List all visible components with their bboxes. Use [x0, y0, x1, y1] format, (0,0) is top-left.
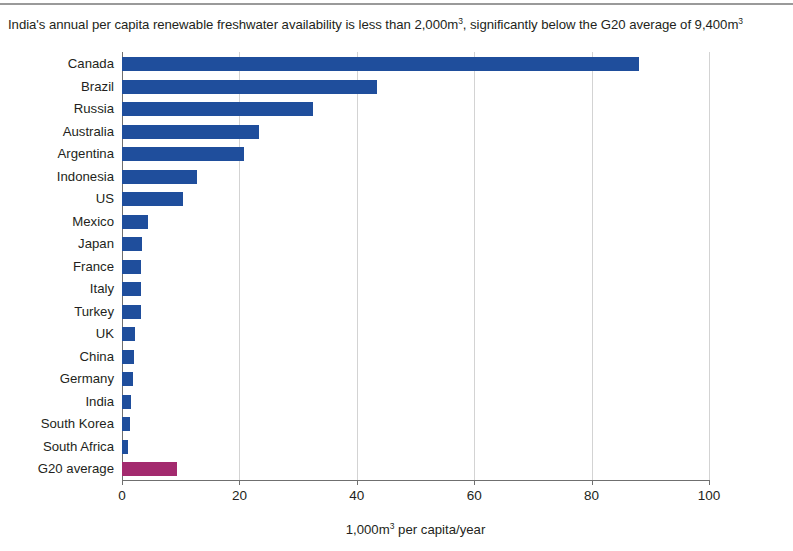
chart-row: South Africa: [122, 435, 709, 459]
x-tick-mark-40: [357, 480, 358, 485]
category-label-canada: Canada: [2, 52, 114, 76]
bar-brazil: [122, 80, 377, 94]
bar-south-africa: [122, 440, 128, 454]
x-axis-title-prefix: 1,000m: [346, 522, 390, 537]
chart-title: India's annual per capita renewable fres…: [8, 17, 788, 33]
x-tick-label-0: 0: [92, 487, 152, 505]
chart-title-superscript-2: 3: [738, 16, 743, 26]
chart-row: South Korea: [122, 412, 709, 436]
bar-china: [122, 350, 134, 364]
x-tick-label-60: 60: [444, 487, 504, 505]
bar-russia: [122, 102, 313, 116]
category-label-indonesia: Indonesia: [2, 165, 114, 189]
category-label-australia: Australia: [2, 120, 114, 144]
bar-india: [122, 395, 131, 409]
x-tick-label-100: 100: [679, 487, 739, 505]
bar-us: [122, 192, 183, 206]
chart-row: UK: [122, 322, 709, 346]
category-label-turkey: Turkey: [2, 300, 114, 324]
x-axis-title: 1,000m3 per capita/year: [122, 522, 709, 537]
chart-row: Mexico: [122, 210, 709, 234]
category-label-south-korea: South Korea: [2, 412, 114, 436]
category-label-japan: Japan: [2, 232, 114, 256]
chart-row: France: [122, 255, 709, 279]
chart-row: Russia: [122, 97, 709, 121]
category-label-mexico: Mexico: [2, 210, 114, 234]
x-tick-label-20: 20: [209, 487, 269, 505]
chart-title-part2: , significantly below the G20 average of…: [463, 17, 738, 32]
category-label-g20-average: G20 average: [2, 457, 114, 481]
x-tick-mark-60: [474, 480, 475, 485]
chart-row: US: [122, 187, 709, 211]
chart-row: Indonesia: [122, 165, 709, 189]
x-tick-mark-20: [239, 480, 240, 485]
bar-mexico: [122, 215, 148, 229]
chart-row: India: [122, 390, 709, 414]
category-label-uk: UK: [2, 322, 114, 346]
category-label-south-africa: South Africa: [2, 435, 114, 459]
category-label-russia: Russia: [2, 97, 114, 121]
bar-g20-average: [122, 462, 177, 476]
category-label-france: France: [2, 255, 114, 279]
chart-row: China: [122, 345, 709, 369]
bar-germany: [122, 372, 133, 386]
bar-italy: [122, 282, 141, 296]
chart-row: Japan: [122, 232, 709, 256]
x-tick-label-80: 80: [562, 487, 622, 505]
x-axis-title-suffix: per capita/year: [394, 522, 485, 537]
chart-row: Brazil: [122, 75, 709, 99]
chart-row: Italy: [122, 277, 709, 301]
bar-argentina: [122, 147, 244, 161]
chart-row: G20 average: [122, 457, 709, 481]
category-label-china: China: [2, 345, 114, 369]
bar-australia: [122, 125, 259, 139]
category-label-brazil: Brazil: [2, 75, 114, 99]
header-divider: [0, 3, 793, 5]
chart-row: Turkey: [122, 300, 709, 324]
category-label-germany: Germany: [2, 367, 114, 391]
chart-row: Australia: [122, 120, 709, 144]
bar-south-korea: [122, 417, 130, 431]
category-label-argentina: Argentina: [2, 142, 114, 166]
x-tick-mark-0: [122, 480, 123, 485]
chart-row: Canada: [122, 52, 709, 76]
x-tick-mark-100: [709, 480, 710, 485]
chart-plot-area: CanadaBrazilRussiaAustraliaArgentinaIndo…: [122, 52, 709, 480]
gridline-100: [709, 52, 710, 480]
x-tick-mark-80: [592, 480, 593, 485]
bar-indonesia: [122, 170, 197, 184]
category-label-italy: Italy: [2, 277, 114, 301]
chart-title-part1: India's annual per capita renewable fres…: [8, 17, 458, 32]
x-tick-label-40: 40: [327, 487, 387, 505]
x-axis-line: [122, 480, 709, 481]
bar-canada: [122, 57, 639, 71]
category-label-us: US: [2, 187, 114, 211]
bar-france: [122, 260, 141, 274]
bar-turkey: [122, 305, 141, 319]
bar-japan: [122, 237, 142, 251]
chart-row: Germany: [122, 367, 709, 391]
chart-row: Argentina: [122, 142, 709, 166]
bar-uk: [122, 327, 135, 341]
category-label-india: India: [2, 390, 114, 414]
